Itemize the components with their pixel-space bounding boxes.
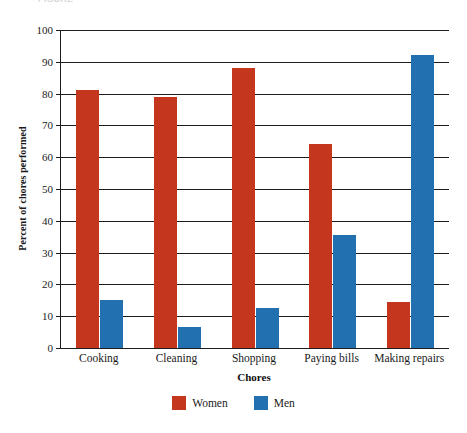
plot-inner — [61, 30, 448, 348]
y-tick-label-20: 20 — [7, 278, 53, 290]
bar-men-shopping — [256, 308, 279, 348]
bar-men-making-repairs — [411, 55, 434, 348]
gridline-100 — [61, 30, 449, 31]
y-tick-label-30: 30 — [7, 247, 53, 259]
y-tick-label-60: 60 — [7, 151, 53, 163]
gridline-60 — [61, 157, 449, 158]
bar-men-paying-bills — [333, 235, 356, 348]
bar-chart: FIGURE Percent of chores performed 01020… — [0, 0, 467, 433]
y-tick-label-90: 90 — [7, 56, 53, 68]
y-tick-mark-30 — [56, 253, 61, 254]
x-tick-label-making-repairs: Making repairs — [374, 352, 444, 364]
y-tick-mark-10 — [56, 316, 61, 317]
y-tick-label-50: 50 — [7, 183, 53, 195]
legend-label-women: Women — [192, 397, 227, 409]
gridline-70 — [61, 125, 449, 126]
plot-area — [60, 30, 448, 348]
bar-men-cooking — [100, 300, 123, 348]
y-tick-label-70: 70 — [7, 119, 53, 131]
y-tick-label-80: 80 — [7, 88, 53, 100]
gridline-80 — [61, 94, 449, 95]
gridline-50 — [61, 189, 449, 190]
y-tick-label-100: 100 — [7, 24, 53, 36]
x-tick-label-cooking: Cooking — [79, 352, 119, 364]
legend-label-men: Men — [274, 397, 295, 409]
legend-swatch-men-icon — [254, 396, 268, 410]
x-tick-label-shopping: Shopping — [232, 352, 276, 364]
gridline-90 — [61, 62, 449, 63]
y-tick-label-40: 40 — [7, 215, 53, 227]
bar-men-cleaning — [178, 327, 201, 348]
y-tick-mark-50 — [56, 189, 61, 190]
x-axis-tick-labels: CookingCleaningShoppingPaying billsMakin… — [60, 352, 448, 372]
gridline-0 — [61, 348, 449, 349]
y-axis-tick-labels: 0102030405060708090100 — [0, 30, 53, 348]
bar-women-cooking — [76, 90, 99, 348]
y-tick-mark-70 — [56, 125, 61, 126]
y-tick-mark-100 — [56, 30, 61, 31]
legend-item-men[interactable]: Men — [254, 396, 295, 410]
y-tick-mark-20 — [56, 284, 61, 285]
y-tick-label-0: 0 — [7, 342, 53, 354]
y-tick-mark-60 — [56, 157, 61, 158]
x-tick-label-paying-bills: Paying bills — [304, 352, 359, 364]
y-tick-label-10: 10 — [7, 310, 53, 322]
chart-legend: WomenMen — [0, 396, 467, 410]
x-tick-label-cleaning: Cleaning — [156, 352, 198, 364]
legend-item-women[interactable]: Women — [172, 396, 227, 410]
cropped-title-remnant: FIGURE — [38, 0, 238, 3]
x-axis-title: Chores — [60, 371, 448, 383]
bar-women-making-repairs — [387, 302, 410, 348]
bar-women-cleaning — [154, 97, 177, 348]
legend-swatch-women-icon — [172, 396, 186, 410]
bar-women-paying-bills — [309, 144, 332, 348]
y-tick-mark-90 — [56, 62, 61, 63]
y-tick-mark-40 — [56, 221, 61, 222]
bar-women-shopping — [232, 68, 255, 348]
y-tick-mark-0 — [56, 348, 61, 349]
y-tick-mark-80 — [56, 94, 61, 95]
gridline-40 — [61, 221, 449, 222]
gridline-30 — [61, 253, 449, 254]
gridline-20 — [61, 284, 449, 285]
